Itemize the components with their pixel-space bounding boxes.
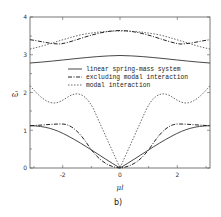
ytick-1: 1 <box>23 127 27 134</box>
x-axis-label: μl <box>117 184 124 192</box>
series-modal-upper <box>30 31 210 49</box>
ytick-3: 3 <box>23 51 27 58</box>
subfigure-label: b) <box>114 198 122 207</box>
plot-frame <box>30 17 210 168</box>
y-ticks <box>30 17 210 168</box>
series-modal-lower <box>30 86 210 168</box>
legend-label-excluding: excluding modal interaction <box>86 74 188 81</box>
series-excluding-optical <box>30 31 210 45</box>
ytick-0: 0 <box>23 164 27 171</box>
y-axis-label: ω̄ <box>12 90 19 99</box>
legend-label-modal: modal interaction <box>86 82 150 89</box>
legend-label-linear: linear spring-mass system <box>86 66 181 73</box>
ytick-4: 4 <box>23 13 27 20</box>
xtick-2: 2 <box>175 171 179 178</box>
x-ticks <box>34 17 206 168</box>
ytick-2: 2 <box>23 89 27 96</box>
xtick-neg2: -2 <box>60 171 66 178</box>
xtick-0: 0 <box>118 171 122 178</box>
series-linear-optical <box>30 56 210 64</box>
dispersion-chart: 0 1 2 3 4 -2 0 2 ω̄ μl b) linear spring-… <box>0 0 221 217</box>
legend: linear spring-mass system excluding moda… <box>68 66 188 89</box>
series-linear-acoustic <box>30 126 210 168</box>
